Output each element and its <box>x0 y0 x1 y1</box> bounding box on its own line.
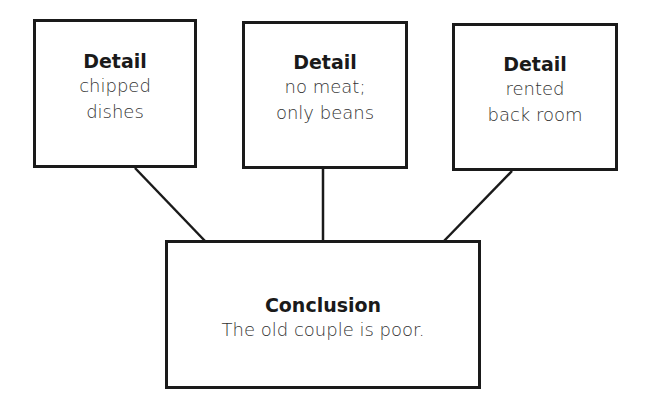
detail-text-line: rented <box>487 76 582 102</box>
detail-box-2: Detail no meat; only beans <box>242 21 408 169</box>
detail-text-line: no meat; <box>276 74 374 100</box>
detail-text-line: chipped <box>79 73 151 99</box>
detail-box-3: Detail rented back room <box>452 23 618 171</box>
conclusion-box: Conclusion The old couple is poor. <box>165 240 481 389</box>
detail-text-line: only beans <box>276 100 374 126</box>
conclusion-title: Conclusion <box>222 293 425 317</box>
detail-text-line: dishes <box>79 99 151 125</box>
detail-text-line: back room <box>487 102 582 128</box>
detail-title: Detail <box>276 50 374 74</box>
detail-title: Detail <box>487 52 582 76</box>
conclusion-text: The old couple is poor. <box>222 317 425 343</box>
detail-box-1: Detail chipped dishes <box>33 19 197 168</box>
connector-detail-3 <box>443 171 512 242</box>
connector-detail-1 <box>135 168 205 241</box>
detail-title: Detail <box>79 49 151 73</box>
